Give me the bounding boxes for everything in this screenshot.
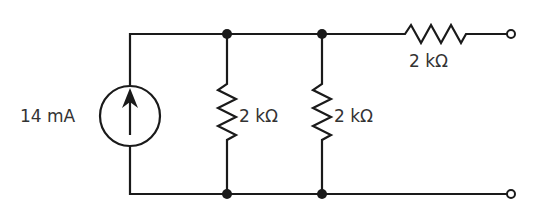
r1-value-label: 2 kΩ [239, 106, 278, 126]
node-dot-top-1 [222, 29, 232, 39]
output-terminal-top[interactable] [507, 30, 515, 38]
output-terminal-bottom[interactable] [507, 190, 515, 198]
node-dot-bottom-1 [222, 189, 232, 199]
source-value-label: 14 mA [20, 106, 76, 126]
wire-left-top [130, 34, 400, 86]
r2-value-label: 2 kΩ [334, 106, 373, 126]
resistor-r2-icon [313, 34, 331, 194]
circuit-diagram: 14 mA 2 kΩ 2 kΩ 2 kΩ [0, 0, 540, 221]
resistor-r1-icon [218, 34, 236, 194]
wire-left-bottom [130, 146, 507, 194]
node-dot-top-2 [317, 29, 327, 39]
node-dot-bottom-2 [317, 189, 327, 199]
r3-value-label: 2 kΩ [409, 51, 448, 71]
resistor-r3-icon [400, 25, 507, 43]
